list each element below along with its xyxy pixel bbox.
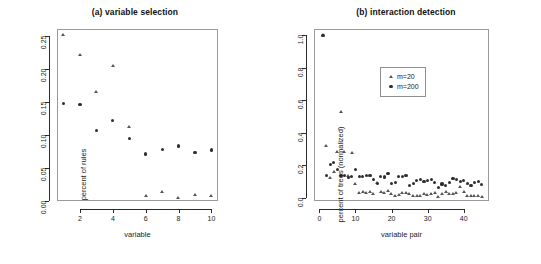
y-tick-label: 0.25 [40,35,47,59]
panel-a-title: (a) variable selection [0,7,270,17]
y-tick-label: 0.4 [297,132,304,156]
triangle-icon [386,75,396,78]
x-tick-label: 20 [378,215,406,222]
legend-item-m20: m=20 [386,72,419,81]
x-tick [211,209,212,213]
x-tick-label: 4 [99,215,127,222]
legend-label-m20: m=20 [397,73,415,80]
x-tick-label: 8 [165,215,193,222]
y-tick-label: 0.20 [40,68,47,92]
x-tick-label: 6 [132,215,160,222]
legend-item-m200: m=200 [386,82,419,91]
x-tick-label: 10 [341,215,369,222]
x-tick [179,209,180,213]
y-tick-label: 0.2 [297,165,304,189]
y-tick-label: 0.6 [297,100,304,124]
x-tick [146,209,147,213]
y-tick-label: 0.05 [40,167,47,191]
x-tick [392,209,393,213]
y-tick-label: 0.8 [297,67,304,91]
x-tick-label: 30 [414,215,442,222]
panel-b-legend: m=20 m=200 [380,67,426,97]
x-tick-label: 10 [197,215,225,222]
y-axis-line [49,36,50,201]
legend-label-m200: m=200 [397,83,419,90]
panel-b-y-axis-title: percent of trees (normalized) [336,115,345,235]
y-tick-label: 0.15 [40,101,47,125]
panel-a-y-axis-title: percent of rules [79,115,88,235]
y-tick-label: 1.0 [297,35,304,59]
x-tick [113,209,114,213]
x-tick [464,209,465,213]
x-tick [355,209,356,213]
x-tick-label: 40 [450,215,478,222]
x-tick [428,209,429,213]
x-tick [319,209,320,213]
y-tick-label: 0.00 [40,201,47,225]
panel-b-title: (b) interaction detection [271,7,541,17]
x-tick-label: 0 [305,215,333,222]
y-axis-line [306,35,307,197]
panel-variable-selection: (a) variable selection 2468100.000.050.1… [0,0,270,264]
circle-icon [386,85,396,88]
panel-interaction-detection: (b) interaction detection 0102030400.00.… [271,0,541,264]
y-tick-label: 0.0 [297,197,304,221]
figure-root: (a) variable selection 2468100.000.050.1… [0,0,541,264]
y-tick-label: 0.10 [40,134,47,158]
